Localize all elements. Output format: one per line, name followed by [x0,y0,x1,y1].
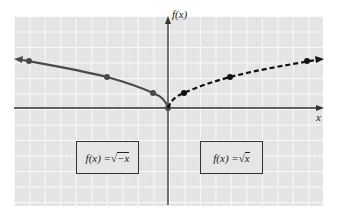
left-function-prefix: f(x) = [86,152,111,164]
x-axis-label: x [316,111,321,123]
right-function-radicand: x [245,152,250,164]
left-function-label: f(x) = √ −x [76,141,139,174]
chart-canvas [0,0,340,217]
right-function-prefix: f(x) = [213,152,238,164]
right-function-label: f(x) = √ x [200,141,263,174]
left-function-radicand: −x [117,152,129,164]
y-axis-label: f(x) [172,8,187,20]
